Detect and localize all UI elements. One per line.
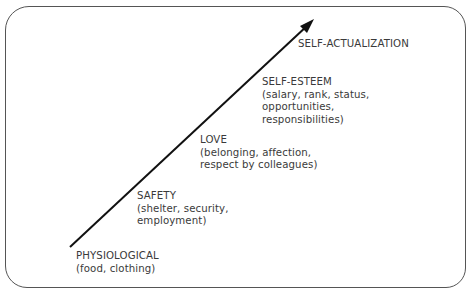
level-physiological: PHYSIOLOGICAL (food, clothing) <box>76 250 159 275</box>
level-love: LOVE (belonging, affection, respect by c… <box>200 134 318 172</box>
level-self-esteem: SELF-ESTEEM (salary, rank, status, oppor… <box>262 76 369 126</box>
level-safety: SAFETY (shelter, security, employment) <box>137 190 229 228</box>
level-self-actualization: SELF-ACTUALIZATION <box>298 38 409 51</box>
